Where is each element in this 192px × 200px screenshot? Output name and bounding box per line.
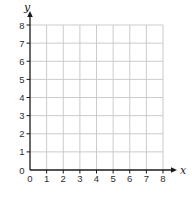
grid-chart: 012345678012345678 x y — [0, 0, 192, 200]
y-tick-label: 3 — [19, 110, 24, 121]
axes — [27, 11, 177, 173]
x-tick-label: 7 — [144, 173, 149, 184]
y-tick-label: 5 — [19, 74, 24, 85]
y-tick-label: 4 — [19, 92, 24, 103]
y-tick-label: 6 — [19, 56, 24, 67]
gridlines — [30, 25, 163, 170]
x-tick-label: 4 — [94, 173, 99, 184]
y-tick-label: 1 — [19, 146, 24, 157]
y-tick-label: 7 — [19, 38, 24, 49]
y-tick-label: 0 — [19, 165, 24, 176]
x-tick-label: 1 — [44, 173, 49, 184]
x-tick-label: 8 — [160, 173, 165, 184]
x-tick-label: 5 — [110, 173, 115, 184]
coordinate-grid: 012345678012345678 x y — [0, 0, 192, 200]
y-tick-label: 8 — [19, 20, 24, 31]
y-tick-label: 2 — [19, 128, 24, 139]
x-tick-label: 3 — [77, 173, 82, 184]
x-axis-label: x — [180, 164, 187, 177]
y-axis-label: y — [23, 1, 31, 14]
tick-labels: 012345678012345678 — [19, 20, 165, 184]
x-axis-arrow — [171, 167, 177, 173]
x-tick-label: 6 — [127, 173, 132, 184]
x-tick-label: 0 — [27, 173, 32, 184]
x-tick-label: 2 — [61, 173, 66, 184]
